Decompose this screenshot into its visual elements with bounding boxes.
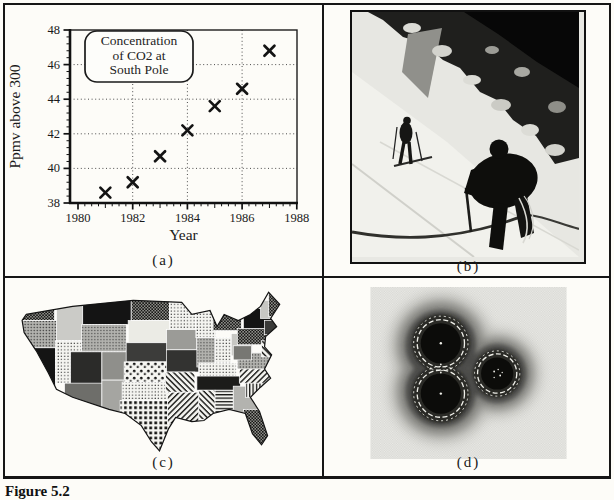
svg-text:40: 40 bbox=[48, 161, 61, 175]
svg-text:of CO2 at: of CO2 at bbox=[112, 48, 165, 63]
svg-text:South Pole: South Pole bbox=[110, 62, 169, 77]
svg-text:38: 38 bbox=[48, 196, 61, 210]
panel-a: 19801982198419861988384042444648Concentr… bbox=[5, 5, 324, 278]
panel-d: (d) bbox=[324, 278, 609, 476]
svg-text:44: 44 bbox=[48, 92, 61, 106]
y-axis-label: Ppmv above 300 bbox=[6, 64, 23, 168]
panel-c-caption: (c) bbox=[5, 454, 322, 471]
svg-text:1982: 1982 bbox=[120, 211, 145, 225]
us-map-art bbox=[12, 284, 308, 454]
us-states-map bbox=[12, 284, 308, 454]
contour-field-image bbox=[370, 287, 567, 459]
x-axis-label: Year bbox=[169, 226, 198, 243]
state-patches bbox=[17, 288, 285, 454]
panel-b: (b) bbox=[324, 5, 609, 278]
svg-text:46: 46 bbox=[48, 58, 61, 72]
figure-number-label: Figure 5.2 bbox=[5, 483, 70, 500]
co2-scatter-chart: 19801982198419861988384042444648Concentr… bbox=[5, 5, 322, 278]
svg-text:1980: 1980 bbox=[66, 211, 91, 225]
svg-text:1984: 1984 bbox=[175, 211, 201, 225]
svg-text:48: 48 bbox=[48, 23, 61, 37]
panel-c: (c) bbox=[5, 278, 324, 476]
panel-d-caption: (d) bbox=[370, 454, 567, 471]
svg-text:42: 42 bbox=[48, 127, 61, 141]
svg-text:Concentration: Concentration bbox=[101, 33, 178, 48]
svg-text:1988: 1988 bbox=[284, 211, 309, 225]
figure-grid: 19801982198419861988384042444648Concentr… bbox=[3, 3, 611, 479]
mountaineers-photo bbox=[350, 10, 586, 264]
panel-b-caption: (b) bbox=[350, 258, 587, 275]
contour-art bbox=[370, 287, 567, 459]
panel-a-caption: (a) bbox=[5, 252, 322, 269]
svg-text:1986: 1986 bbox=[230, 211, 255, 225]
mountaineers-photo-art bbox=[352, 12, 579, 257]
